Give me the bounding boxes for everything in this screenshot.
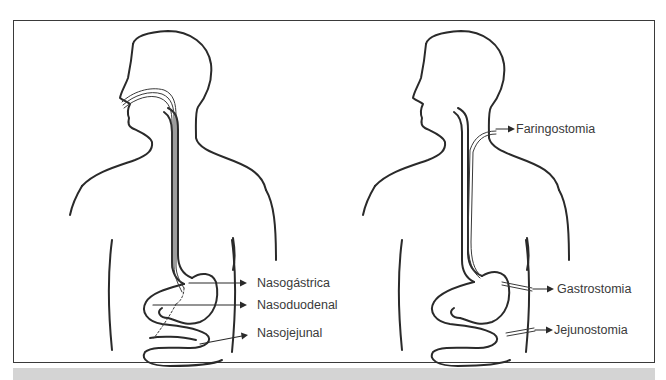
label-gastrostomy: Gastrostomia (557, 282, 631, 296)
left-feeding-tubes (122, 89, 184, 338)
arrow-pharyngostomy (508, 126, 515, 133)
label-pharyngostomy: Faringostomia (516, 122, 595, 136)
label-nasoduodenal: Nasoduodenal (257, 298, 338, 312)
arrow-nasogastric (240, 280, 247, 287)
left-leader-lines (153, 283, 242, 344)
arrow-jejunostomy (546, 327, 553, 334)
left-digestive-tract (144, 108, 222, 366)
label-jejunostomy: Jejunostomia (554, 323, 628, 337)
label-nasojejunal: Nasojejunal (257, 326, 322, 340)
arrow-gastrostomy (547, 286, 554, 293)
arrow-nasojejunal (241, 333, 248, 340)
right-feeding-tubes (468, 131, 535, 336)
right-body-silhouette (363, 31, 569, 352)
arrow-nasoduodenal (240, 302, 247, 309)
label-nasogastric: Nasogástrica (257, 276, 330, 290)
